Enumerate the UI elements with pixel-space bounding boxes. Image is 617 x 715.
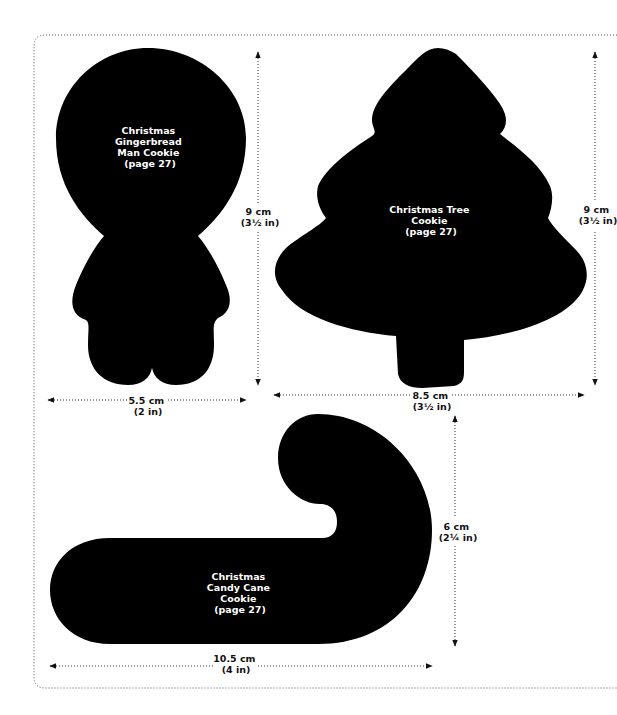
tree-height-label: 9 cm (3½ in) xyxy=(579,204,617,226)
gingerbread-label: Christmas Gingerbread Man Cookie (page 2… xyxy=(115,125,185,169)
candy-cane-width-label: 10.5 cm (4 in) xyxy=(213,653,259,675)
candy-cane-height-label: 6 cm (2¼ in) xyxy=(439,521,477,543)
cookie-template-sheet: Christmas Gingerbread Man Cookie (page 2… xyxy=(0,0,617,715)
tree-width-label: 8.5 cm (3½ in) xyxy=(413,390,452,412)
gingerbread-height-label: 9 cm (3½ in) xyxy=(241,206,279,228)
gingerbread-width-label: 5.5 cm (2 in) xyxy=(129,395,168,417)
gingerbread-man-shape xyxy=(56,48,246,385)
